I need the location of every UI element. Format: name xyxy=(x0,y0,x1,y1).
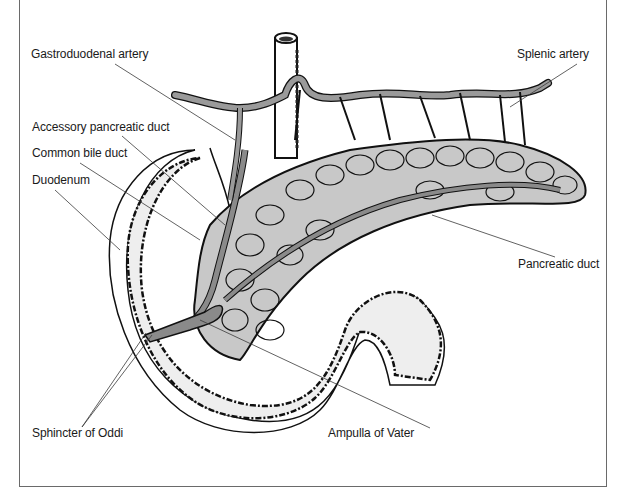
label-accessory-pancreatic-duct: Accessory pancreatic duct xyxy=(32,120,170,134)
label-duodenum: Duodenum xyxy=(32,173,90,187)
pancreas-illustration xyxy=(0,0,626,498)
label-pancreatic-duct: Pancreatic duct xyxy=(518,257,599,271)
label-sphincter-of-oddi: Sphincter of Oddi xyxy=(32,426,123,440)
label-gastroduodenal-artery: Gastroduodenal artery xyxy=(31,47,148,61)
label-ampulla-of-vater: Ampulla of Vater xyxy=(328,426,414,440)
label-common-bile-duct: Common bile duct xyxy=(32,146,127,160)
label-splenic-artery: Splenic artery xyxy=(517,47,589,61)
